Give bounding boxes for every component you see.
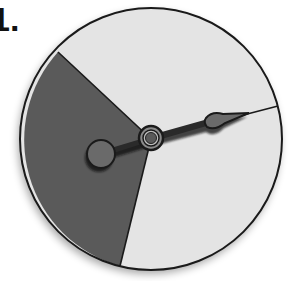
pointer-hub-center bbox=[146, 133, 157, 144]
pointer-tail bbox=[87, 140, 115, 168]
spinner-diagram bbox=[0, 0, 296, 281]
